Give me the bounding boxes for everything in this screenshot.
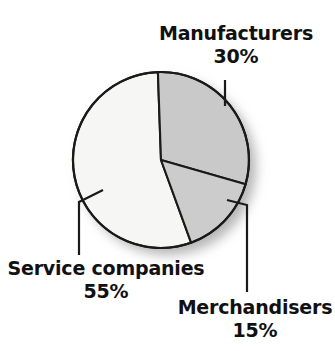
pie-label-merchandisers-percent: 15%: [175, 319, 335, 342]
pie-label-manufacturers-name: Manufacturers: [159, 22, 313, 44]
pie-label-manufacturers: Manufacturers 30%: [141, 22, 331, 68]
pie-label-merchandisers: Merchandisers 15%: [175, 296, 335, 342]
pie-label-manufacturers-percent: 30%: [141, 45, 331, 68]
pie-label-service-companies-name: Service companies: [8, 257, 205, 279]
pie-label-merchandisers-name: Merchandisers: [178, 296, 333, 318]
pie-chart-figure: Manufacturers 30% Service companies 55% …: [0, 0, 335, 351]
